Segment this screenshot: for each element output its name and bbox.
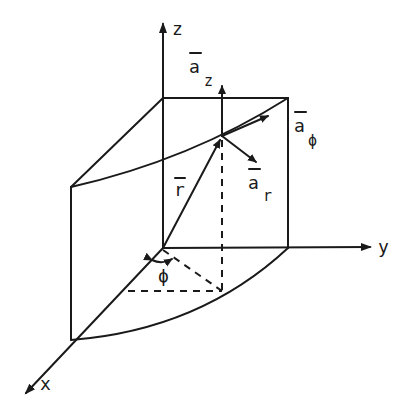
svg-text:a: a — [248, 172, 259, 193]
unit-vector-ar — [222, 136, 256, 162]
svg-text:r: r — [174, 179, 185, 200]
label-aphi: a ϕ — [294, 112, 317, 150]
cylinder-sector-wireframe — [71, 98, 288, 340]
x-axis — [26, 248, 163, 393]
cylindrical-coordinates-diagram: z y x a z a ϕ a r r ϕ — [0, 0, 415, 411]
label-r: r — [174, 178, 185, 200]
svg-text:r: r — [263, 187, 272, 205]
y-axis — [163, 247, 370, 248]
label-ar: a r — [248, 169, 272, 205]
svg-text:a: a — [189, 56, 200, 77]
phi-angle-label: ϕ — [158, 265, 169, 286]
x-axis-label: x — [40, 373, 51, 394]
svg-text:ϕ: ϕ — [308, 132, 317, 150]
svg-text:a: a — [294, 115, 305, 136]
svg-text:z: z — [204, 72, 213, 90]
z-axis-label: z — [172, 18, 183, 39]
phi-angle-arc — [152, 259, 172, 262]
unit-vector-aphi — [222, 116, 268, 136]
y-axis-label: y — [378, 236, 389, 257]
label-az: a z — [189, 53, 213, 90]
